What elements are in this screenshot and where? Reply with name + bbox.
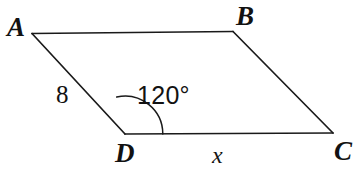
angle-measure-label: 120°	[137, 83, 190, 108]
vertex-label-b: B	[236, 3, 254, 30]
vertex-label-a: A	[7, 14, 25, 41]
side-length-label-ad: 8	[56, 82, 69, 107]
geometry-figure: A B C D 8 x 120°	[0, 0, 353, 172]
edge-bc	[233, 32, 333, 134]
vertex-label-d: D	[115, 140, 135, 167]
side-length-label-dc: x	[212, 143, 223, 167]
edge-ab	[32, 32, 233, 34]
vertex-label-c: C	[334, 138, 352, 165]
edge-ad	[32, 34, 125, 135]
edge-dc	[125, 133, 333, 134]
